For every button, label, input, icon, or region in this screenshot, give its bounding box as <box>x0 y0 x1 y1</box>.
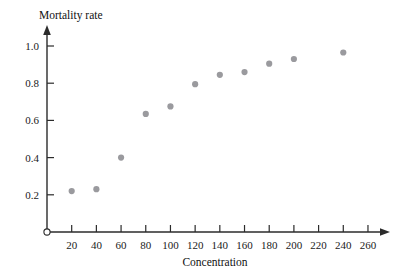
x-tick-label: 100 <box>162 239 179 251</box>
x-tick-label: 220 <box>310 239 327 251</box>
data-point <box>192 81 198 87</box>
x-tick-label: 40 <box>91 239 103 251</box>
y-tick-label: 0.6 <box>25 114 39 126</box>
y-tick-marks <box>47 46 54 195</box>
x-tick-label: 120 <box>187 239 204 251</box>
plot-canvas: 0.20.40.60.81.0 204060801001201401601802… <box>0 0 416 280</box>
data-point <box>118 155 124 161</box>
x-tick-label: 20 <box>66 239 78 251</box>
x-tick-label: 260 <box>360 239 377 251</box>
x-tick-label: 60 <box>116 239 128 251</box>
data-point <box>241 69 247 75</box>
origin-marker <box>44 229 50 235</box>
data-point <box>266 61 272 67</box>
y-tick-label: 1.0 <box>25 40 39 52</box>
y-tick-label: 0.8 <box>25 77 39 89</box>
x-tick-marks <box>72 225 368 232</box>
x-axis-title: Concentration <box>182 256 247 268</box>
x-tick-label: 200 <box>286 239 303 251</box>
x-tick-label: 80 <box>140 239 152 251</box>
x-tick-labels: 20406080100120140160180200220240260 <box>66 239 377 251</box>
x-tick-label: 180 <box>261 239 278 251</box>
data-point <box>291 56 297 62</box>
y-tick-label: 0.2 <box>25 189 39 201</box>
x-tick-label: 240 <box>335 239 352 251</box>
y-axis-arrowhead <box>43 25 51 35</box>
data-point <box>69 188 75 194</box>
y-tick-label: 0.4 <box>25 152 39 164</box>
x-tick-label: 140 <box>212 239 229 251</box>
data-point <box>217 72 223 78</box>
data-point <box>93 186 99 192</box>
x-tick-label: 160 <box>236 239 253 251</box>
x-axis-arrowhead <box>380 228 390 236</box>
data-point <box>167 103 173 109</box>
y-axis-title: Mortality rate <box>39 9 103 22</box>
y-tick-labels: 0.20.40.60.81.0 <box>25 40 39 201</box>
data-points-group <box>69 49 347 194</box>
data-point <box>340 49 346 55</box>
data-point <box>143 111 149 117</box>
axes-group <box>43 25 390 236</box>
scatter-plot-figure: 0.20.40.60.81.0 204060801001201401601802… <box>0 0 416 280</box>
